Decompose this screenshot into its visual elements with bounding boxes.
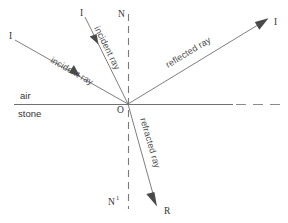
ray-label-incident-outer: incident ray [49, 55, 95, 87]
ray-diagram-figure: air stone O N N 1 I I I R incident ray i… [0, 0, 288, 223]
ray-label-reflected: reflected ray [164, 35, 213, 70]
medium-label-stone: stone [18, 108, 41, 119]
reflected-ray-arrowhead [255, 18, 269, 30]
point-label-reflected-end: I [274, 17, 277, 27]
ray-label-refracted: refracted ray [138, 117, 162, 170]
ray-label-incident-inner: incident ray [92, 24, 122, 71]
optics-diagram-canvas: air stone O N N 1 I I I R incident ray i… [0, 0, 288, 223]
point-label-refracted-end: R [164, 206, 171, 216]
point-label-normal-bottom-superscript: 1 [116, 194, 119, 201]
refracted-ray-arrowhead [146, 192, 157, 207]
incident-ray-inner-line [85, 17, 128, 104]
point-label-origin: O [117, 105, 124, 115]
point-label-incident-inner: I [80, 8, 83, 18]
reflected-ray-line [128, 20, 266, 104]
point-label-normal-top: N [118, 9, 125, 19]
point-label-incident-left: I [9, 31, 12, 41]
point-label-normal-bottom: N [108, 197, 115, 207]
medium-label-air: air [20, 90, 31, 101]
